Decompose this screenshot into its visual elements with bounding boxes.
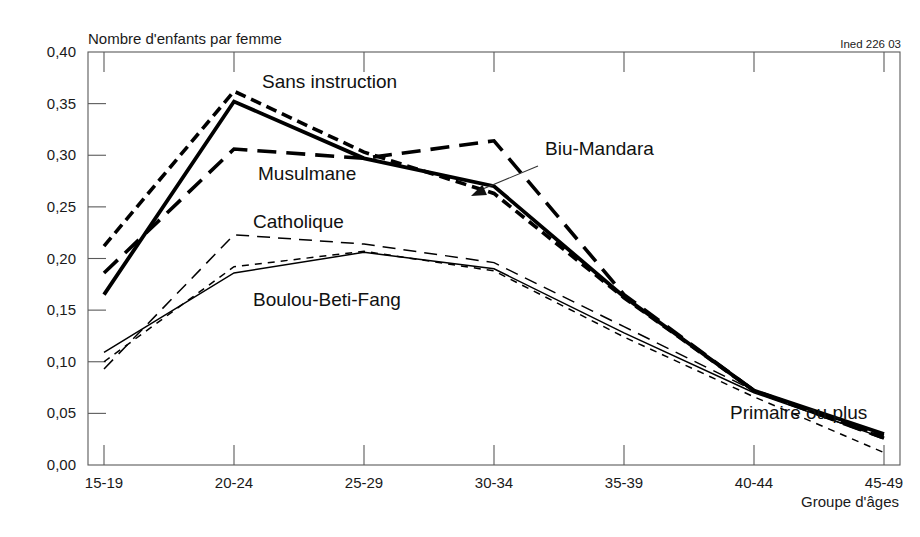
y-axis-title: Nombre d'enfants par femme [88,30,282,47]
series-label-catholique: Catholique [253,211,344,232]
series-label-biu-mandara: Biu-Mandara [545,138,654,159]
series-label-musulmane: Musulmane [258,163,356,184]
y-tick-label: 0,05 [47,404,76,421]
series-label-boulou-beti-fang: Boulou-Beti-Fang [253,289,401,310]
chart-background [0,0,920,537]
series-label-primaire-ou-plus: Primaire ou plus [730,402,867,423]
series-label-sans-instruction: Sans instruction [262,71,397,92]
y-tick-label: 0,25 [47,198,76,215]
x-tick-label: 45-49 [865,474,903,491]
y-tick-label: 0,00 [47,456,76,473]
x-tick-label: 35-39 [605,474,643,491]
y-tick-label: 0,20 [47,250,76,267]
line-chart: Nombre d'enfants par femme Ined 226 03 0… [0,0,920,537]
x-tick-label: 25-29 [345,474,383,491]
x-tick-label: 40-44 [735,474,773,491]
x-axis-title: Groupe d'âges [801,493,899,510]
x-tick-label: 15-19 [85,474,123,491]
y-tick-label: 0,35 [47,95,76,112]
credit-label: Ined 226 03 [840,38,901,50]
y-tick-label: 0,15 [47,301,76,318]
x-tick-label: 20-24 [215,474,253,491]
y-tick-label: 0,30 [47,146,76,163]
figure-container: Nombre d'enfants par femme Ined 226 03 0… [0,0,920,537]
x-tick-label: 30-34 [475,474,513,491]
y-tick-label: 0,40 [47,43,76,60]
y-tick-label: 0,10 [47,353,76,370]
